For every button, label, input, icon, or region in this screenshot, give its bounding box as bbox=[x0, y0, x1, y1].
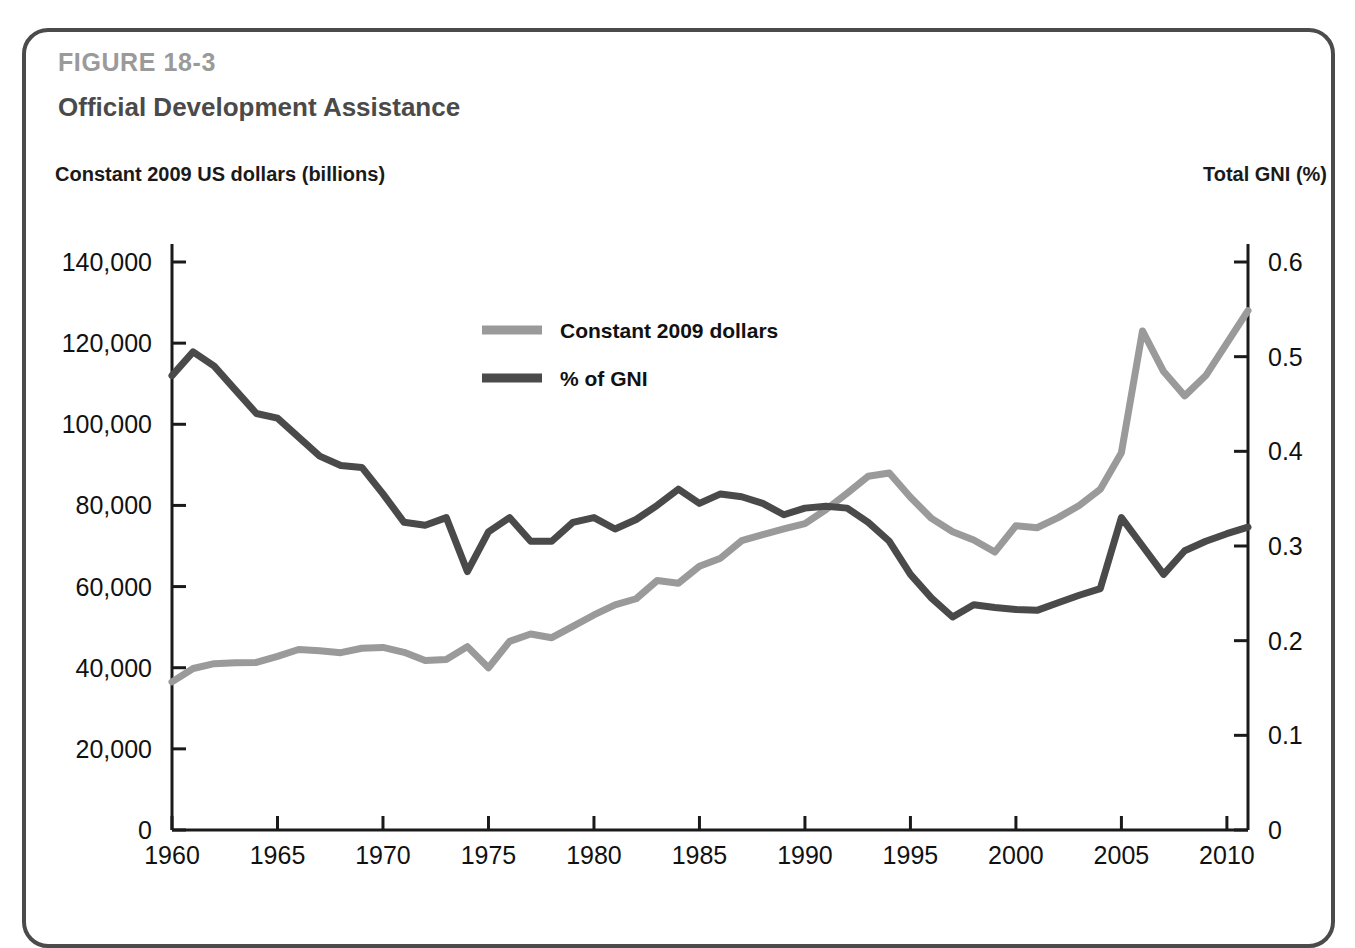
right-axis-caption: Total GNI (%) bbox=[1203, 163, 1327, 186]
figure-number: FIGURE 18-3 bbox=[58, 48, 216, 77]
figure-title: Official Development Assistance bbox=[58, 92, 460, 123]
left-axis-caption: Constant 2009 US dollars (billions) bbox=[55, 163, 385, 186]
